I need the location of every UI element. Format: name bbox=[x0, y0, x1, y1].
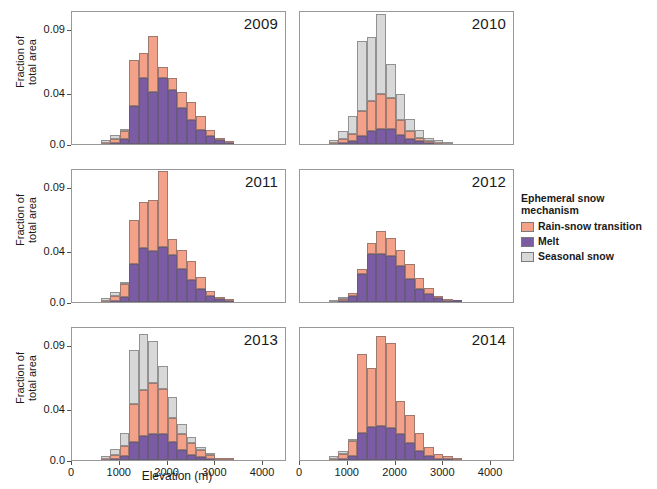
bar-segment-seas bbox=[110, 449, 120, 455]
histogram-bin bbox=[158, 328, 168, 460]
histogram-bin bbox=[396, 12, 406, 144]
x-tick-label: 0 bbox=[279, 466, 319, 478]
bar-segment-melt bbox=[396, 434, 406, 460]
bar-segment-melt bbox=[424, 456, 434, 460]
bar-segment-rain bbox=[129, 220, 139, 263]
y-tick-label: 0.04 bbox=[29, 87, 65, 99]
bar-segment-rain bbox=[158, 171, 168, 248]
legend-item-melt: Melt bbox=[521, 235, 657, 248]
bar-segment-melt bbox=[196, 289, 206, 302]
bar-segment-rain bbox=[443, 299, 453, 301]
x-tick-mark bbox=[119, 461, 120, 465]
legend-rows: Rain-snow transitionMeltSeasonal snow bbox=[521, 220, 657, 263]
histogram-bin bbox=[376, 170, 386, 302]
histogram-bin bbox=[168, 12, 178, 144]
x-tick-mark bbox=[490, 461, 491, 465]
histogram-bin bbox=[225, 12, 235, 144]
bar-segment-seas bbox=[405, 119, 415, 132]
bar-segment-seas bbox=[348, 439, 358, 441]
histogram-bin bbox=[329, 328, 339, 460]
histogram-bin bbox=[453, 12, 463, 144]
y-axis-label-line1: Fraction of bbox=[14, 36, 26, 88]
histogram-bin bbox=[424, 328, 434, 460]
legend-swatch-seas bbox=[521, 252, 534, 262]
histogram-bin bbox=[453, 170, 463, 302]
histogram-bin bbox=[386, 12, 396, 144]
bar-segment-seas bbox=[168, 397, 178, 417]
bar-segment-melt bbox=[177, 108, 187, 144]
legend-swatch-rain bbox=[521, 222, 534, 232]
panel-2010: 2010 bbox=[299, 11, 514, 145]
bar-segment-rain bbox=[187, 443, 197, 454]
histogram-bin bbox=[396, 328, 406, 460]
histogram-bin bbox=[234, 328, 244, 460]
bar-segment-melt bbox=[405, 443, 415, 460]
bar-segment-rain bbox=[110, 455, 120, 459]
histogram-bin bbox=[120, 328, 130, 460]
bar-segment-melt bbox=[120, 297, 130, 302]
bar-segment-melt bbox=[415, 289, 425, 302]
bar-segment-melt bbox=[396, 135, 406, 144]
bar-segment-rain bbox=[396, 120, 406, 135]
bar-segment-rain bbox=[386, 98, 396, 129]
bar-segment-melt bbox=[348, 141, 358, 144]
bar-segment-melt bbox=[206, 136, 216, 144]
histogram-bin bbox=[443, 170, 453, 302]
bar-segment-melt bbox=[367, 254, 377, 302]
bar-segment-seas bbox=[329, 456, 339, 459]
x-tick-mark bbox=[214, 461, 215, 465]
y-axis-label-line2: total area bbox=[26, 197, 38, 243]
bar-segment-melt bbox=[139, 248, 149, 302]
bar-segment-melt bbox=[187, 280, 197, 302]
histogram-bin bbox=[168, 328, 178, 460]
histogram-bin bbox=[196, 170, 206, 302]
x-tick-label: 3000 bbox=[194, 466, 234, 478]
bar-segment-rain bbox=[424, 288, 434, 294]
bar-segment-rain bbox=[415, 138, 425, 142]
bar-segment-melt bbox=[196, 130, 206, 144]
bar-segment-melt bbox=[187, 120, 197, 144]
bar-segment-rain bbox=[225, 299, 235, 301]
bar-segment-melt bbox=[196, 457, 206, 460]
bar-segment-rain bbox=[357, 111, 367, 137]
bar-segment-seas bbox=[338, 451, 348, 454]
bar-segment-seas bbox=[110, 135, 120, 139]
histogram-bin bbox=[139, 170, 149, 302]
x-tick-label: 0 bbox=[51, 466, 91, 478]
y-tick-mark bbox=[67, 303, 71, 304]
histogram-bin bbox=[129, 12, 139, 144]
histogram-bin bbox=[168, 170, 178, 302]
histogram-bin bbox=[415, 328, 425, 460]
bar-segment-seas bbox=[357, 41, 367, 111]
bar-segment-rain bbox=[206, 291, 216, 296]
histogram-bin bbox=[148, 170, 158, 302]
x-tick-label: 3000 bbox=[422, 466, 462, 478]
bar-segment-seas bbox=[338, 131, 348, 139]
bar-segment-melt bbox=[215, 299, 225, 302]
bar-segment-melt bbox=[453, 300, 463, 302]
bar-segment-melt bbox=[434, 298, 444, 302]
histogram-bin bbox=[376, 12, 386, 144]
bar-segment-rain bbox=[215, 297, 225, 300]
bar-segment-melt bbox=[177, 450, 187, 460]
panel-year-label: 2012 bbox=[472, 173, 506, 190]
x-tick-label: 1000 bbox=[99, 466, 139, 478]
histogram-bin bbox=[443, 12, 453, 144]
bar-segment-seas bbox=[129, 350, 139, 404]
bar-segment-melt bbox=[120, 456, 130, 460]
y-tick-mark bbox=[67, 188, 71, 189]
y-axis-label-line1: Fraction of bbox=[14, 352, 26, 404]
bar-segment-melt bbox=[139, 78, 149, 144]
bar-segment-rain bbox=[396, 250, 406, 267]
bar-segment-seas bbox=[196, 447, 206, 450]
bar-segment-seas bbox=[329, 140, 339, 143]
histogram-bin bbox=[348, 170, 358, 302]
bar-segment-rain bbox=[405, 131, 415, 139]
bar-segment-melt bbox=[386, 256, 396, 302]
bar-segment-melt bbox=[129, 442, 139, 460]
histogram-bin bbox=[110, 12, 120, 144]
histogram-bin bbox=[177, 12, 187, 144]
histogram-bin bbox=[234, 12, 244, 144]
bar-segment-rain bbox=[206, 455, 216, 459]
bar-segment-melt bbox=[415, 141, 425, 144]
